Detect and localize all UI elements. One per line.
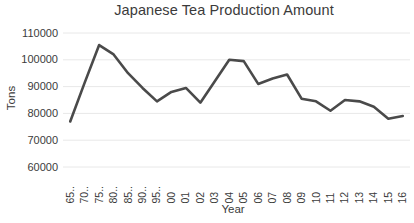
x-axis-tick-label: 13: [353, 191, 364, 203]
y-axis-tick-label: 110000: [12, 28, 58, 39]
x-axis-tick-label: 75..: [93, 185, 104, 203]
x-axis-tick-label: 07: [267, 191, 278, 203]
x-axis-tick-label: 00: [165, 191, 176, 203]
y-axis-tick-label: 70000: [12, 135, 58, 146]
x-axis-tick-label: 70..: [79, 185, 90, 203]
x-axis-tick-label: 85..: [122, 185, 133, 203]
line-chart-svg: [63, 33, 410, 167]
data-series-line: [70, 45, 403, 121]
x-axis-tick-label: 80..: [108, 185, 119, 203]
plot-area: [63, 33, 410, 167]
x-axis-tick-label: 90..: [137, 185, 148, 203]
x-axis-tick-label: 02: [194, 191, 205, 203]
x-axis-tick-label: 12: [339, 191, 350, 203]
x-axis-tick-label: 65..: [64, 185, 75, 203]
y-axis-tick-label: 90000: [12, 81, 58, 92]
x-axis-tick-label: 14: [368, 191, 379, 203]
y-axis-tick-label: 60000: [12, 162, 58, 173]
y-axis-tick-labels: 11000010000090000800007000060000: [12, 0, 58, 223]
chart-container: Japanese Tea Production Amount Tons 1100…: [0, 0, 414, 223]
x-axis-tick-label: 15: [382, 191, 393, 203]
x-axis-tick-label: 09: [296, 191, 307, 203]
x-axis-tick-label: 01: [180, 191, 191, 203]
x-axis-title: Year: [56, 203, 410, 215]
x-axis-tick-label: 95..: [151, 185, 162, 203]
x-axis-tick-label: 11: [324, 192, 335, 203]
x-axis-tick-label: 03: [209, 191, 220, 203]
y-axis-tick-label: 100000: [12, 54, 58, 65]
x-axis-tick-label: 10: [310, 191, 321, 203]
y-axis-tick-label: 80000: [12, 108, 58, 119]
x-axis-tick-labels: 65..70..75..80..85..90..95..000102030405…: [63, 169, 410, 203]
x-axis-tick-label: 16: [397, 191, 408, 203]
x-axis-tick-label: 04: [223, 191, 234, 203]
x-axis-tick-label: 05: [238, 191, 249, 203]
x-axis-tick-label: 06: [252, 191, 263, 203]
chart-title: Japanese Tea Production Amount: [0, 2, 414, 18]
x-axis-tick-label: 08: [281, 191, 292, 203]
